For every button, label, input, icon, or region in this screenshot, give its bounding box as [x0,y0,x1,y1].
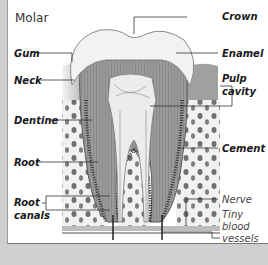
label-neck: Neck [14,74,42,87]
label-pulp: Pulp [222,72,247,85]
label-crown: Crown [222,10,258,23]
label-root: Root [14,156,40,169]
diagram-title: Molar [15,11,48,25]
label-cavity: cavity [222,85,256,98]
label-vessels: vessels [222,232,259,245]
label-root-canals-1: Root [14,196,40,209]
label-enamel: Enamel [222,47,263,60]
label-cement: Cement [222,142,265,155]
label-nerve: Nerve [222,193,252,206]
label-gum: Gum [14,47,40,60]
label-root-canals-2: canals [14,209,50,222]
label-dentine: Dentine [14,114,58,127]
